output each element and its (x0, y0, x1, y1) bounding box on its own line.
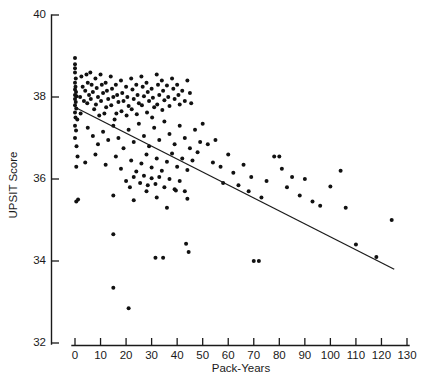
data-point (153, 256, 157, 260)
data-point (147, 99, 151, 103)
x-tick-label: 30 (145, 349, 158, 361)
data-point (187, 250, 191, 254)
data-point (298, 193, 302, 197)
data-point (119, 109, 123, 113)
data-point (85, 101, 89, 105)
data-point (156, 83, 160, 87)
data-point (175, 165, 179, 169)
data-point (101, 91, 105, 95)
data-point (178, 179, 182, 183)
data-point (185, 79, 189, 83)
data-point (155, 72, 159, 76)
x-axis-tick-group: 0102030405060708090100110120130 (72, 338, 417, 361)
data-point (145, 152, 149, 156)
data-point (73, 66, 77, 70)
data-point (127, 128, 131, 132)
data-point (165, 160, 169, 164)
data-point (74, 129, 78, 133)
data-point (73, 111, 77, 115)
data-point (242, 163, 246, 167)
data-point (166, 95, 170, 99)
data-point (140, 103, 144, 107)
data-point (136, 93, 140, 97)
data-point (92, 107, 96, 111)
data-point (155, 102, 159, 106)
data-point (252, 259, 256, 263)
x-tick-label: 20 (120, 349, 133, 361)
data-point (86, 126, 90, 130)
data-point (161, 256, 165, 260)
data-point (150, 176, 154, 180)
data-point (180, 157, 184, 161)
data-point (178, 102, 182, 106)
y-axis-title: UPSIT Score (7, 152, 19, 219)
data-point (129, 159, 133, 163)
data-point (247, 189, 251, 193)
data-point (114, 111, 118, 115)
data-point (167, 177, 171, 181)
data-point (185, 197, 189, 201)
data-point-group (73, 56, 394, 310)
data-point (173, 142, 177, 146)
data-point (125, 95, 129, 99)
data-point (150, 116, 154, 120)
data-point (75, 118, 79, 122)
data-point (83, 89, 87, 93)
data-point (226, 152, 230, 156)
data-point (285, 185, 289, 189)
data-point (167, 104, 171, 108)
data-point (130, 88, 134, 92)
x-tick-label: 60 (222, 349, 235, 361)
data-point (190, 159, 194, 163)
data-point (198, 140, 202, 144)
data-point (74, 77, 78, 81)
data-point (73, 70, 77, 74)
x-tick-label: 10 (94, 349, 107, 361)
data-point (201, 122, 205, 126)
data-point (142, 94, 146, 98)
data-point (128, 185, 132, 189)
data-point (83, 161, 87, 165)
data-point (145, 81, 149, 85)
data-point (188, 146, 192, 150)
data-point (303, 177, 307, 181)
data-point (73, 56, 77, 60)
data-point (139, 75, 143, 79)
scatter-plot-figure: 3234363840 01020304050607080901001101201… (0, 0, 428, 391)
data-point (94, 102, 98, 106)
data-point (124, 179, 128, 183)
data-point (116, 136, 120, 140)
data-point (280, 167, 284, 171)
data-point (153, 182, 157, 186)
data-point (86, 81, 90, 85)
data-point (219, 165, 223, 169)
data-point (74, 165, 78, 169)
data-point (193, 128, 197, 132)
data-point (73, 124, 77, 128)
data-point (111, 286, 115, 290)
data-point (99, 99, 103, 103)
data-point (132, 198, 136, 202)
data-point (152, 105, 156, 109)
data-point (111, 232, 115, 236)
y-tick-label: 40 (33, 8, 46, 20)
data-point (114, 154, 118, 158)
data-point (151, 96, 155, 100)
data-point (125, 113, 129, 117)
data-point (374, 255, 378, 259)
data-point (390, 218, 394, 222)
data-point (189, 101, 193, 105)
data-point (73, 81, 77, 85)
data-point (180, 89, 184, 93)
data-point (134, 83, 138, 87)
x-tick-label: 130 (397, 349, 416, 361)
data-point (81, 85, 85, 89)
y-tick-label: 32 (33, 336, 46, 348)
data-point (272, 154, 276, 158)
data-point (183, 99, 187, 103)
data-point (196, 150, 200, 154)
data-point (178, 124, 182, 128)
data-point (174, 188, 178, 192)
data-point (116, 100, 120, 104)
data-point (141, 85, 145, 89)
